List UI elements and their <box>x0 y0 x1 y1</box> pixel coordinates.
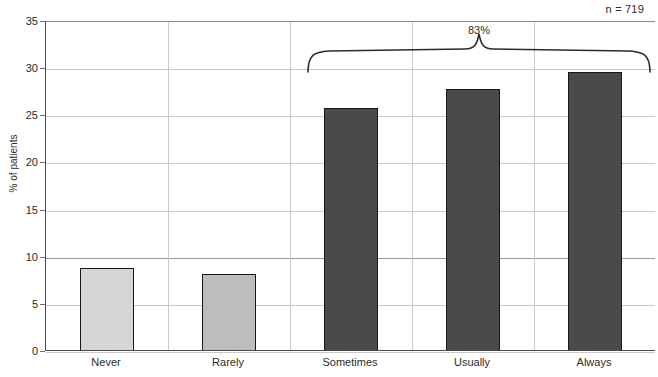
y-tick-label-5: 5 <box>0 298 38 310</box>
gridline-y-0 <box>46 352 655 353</box>
x-tick-label-never: Never <box>56 356 156 368</box>
bar-sometimes <box>324 108 378 351</box>
x-tick-label-rarely: Rarely <box>178 356 278 368</box>
sample-size-annotation: n = 719 <box>606 3 644 15</box>
bracket-label: 83% <box>449 24 509 36</box>
bar-rarely <box>202 274 256 351</box>
x-tick-label-usually: Usually <box>422 356 522 368</box>
y-tick-label-25: 25 <box>0 109 38 121</box>
y-tick-label-10: 10 <box>0 251 38 263</box>
x-tick-label-sometimes: Sometimes <box>300 356 400 368</box>
x-tick-label-always: Always <box>544 356 644 368</box>
y-tick-label-20: 20 <box>0 156 38 168</box>
gridline-x-2 <box>290 22 291 351</box>
y-tick-label-0: 0 <box>0 345 38 357</box>
y-tick-label-15: 15 <box>0 204 38 216</box>
bar-never <box>80 268 134 351</box>
y-tick-label-30: 30 <box>0 62 38 74</box>
y-tick-mark-0 <box>40 351 45 352</box>
gridline-x-1 <box>168 22 169 351</box>
y-tick-label-35: 35 <box>0 15 38 27</box>
bar-always <box>568 72 622 351</box>
bar-usually <box>446 89 500 351</box>
chart-figure: n = 719 % of patients 05101520253035 Nev… <box>0 0 658 377</box>
